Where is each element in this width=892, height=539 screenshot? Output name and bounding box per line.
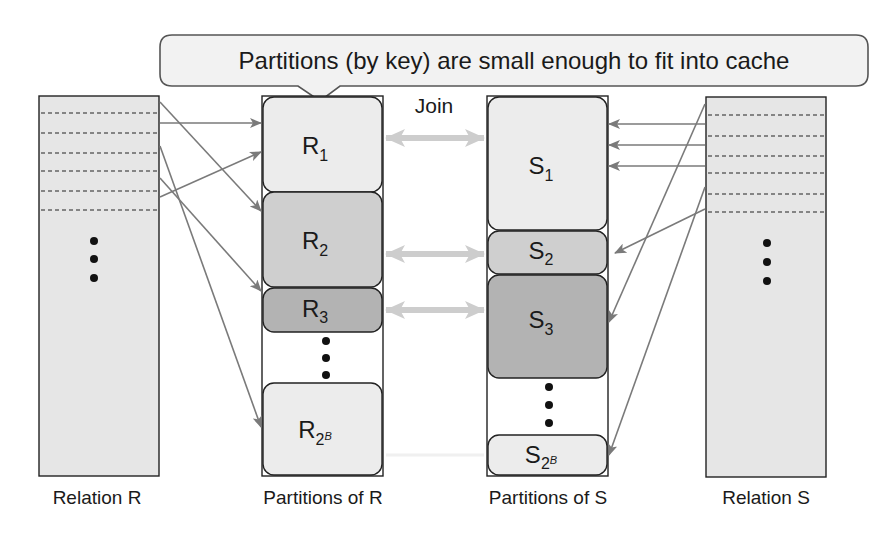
partition-s2b-sup: B <box>550 454 557 466</box>
relation-r-ellipsis-dots <box>90 237 98 282</box>
partitioned-hash-join-diagram: Partitions (by key) are small enough to … <box>0 0 892 539</box>
relation-r-caption: Relation R <box>53 487 142 508</box>
relation-s-table <box>706 97 826 477</box>
partition-s2b-sub: 2 <box>541 455 550 472</box>
join-arrows <box>386 138 484 455</box>
partition-r2b: R2B <box>263 383 382 475</box>
partition-s2b-base: S <box>525 441 541 468</box>
partitions-r-ellipsis-dots <box>322 337 330 379</box>
relation-r-table <box>39 96 159 476</box>
partition-s2-sub: 2 <box>545 251 554 268</box>
partitions-r-column: R1 R2 R3 R2B <box>262 96 383 476</box>
partition-r3-sub: 3 <box>319 309 328 326</box>
partitions-s-ellipsis-dots <box>545 383 553 427</box>
partition-s2: S2 <box>488 231 607 274</box>
join-label: Join <box>415 94 454 117</box>
partition-arrows-s <box>609 104 705 455</box>
partition-s1: S1 <box>488 97 607 230</box>
partition-arrows-r <box>160 102 261 427</box>
partitions-s-caption: Partitions of S <box>489 487 607 508</box>
partition-r2: R2 <box>263 192 382 287</box>
partition-r2b-base: R <box>298 416 315 443</box>
partition-r1-base: R <box>302 132 319 159</box>
partition-s2-base: S <box>529 237 545 264</box>
relation-s-caption: Relation S <box>722 487 810 508</box>
partition-r2b-sup: B <box>324 430 331 442</box>
partition-s3-base: S <box>529 306 545 333</box>
partition-r2b-sub: 2 <box>316 431 325 448</box>
partition-s3: S3 <box>488 275 607 378</box>
callout-bubble: Partitions (by key) are small enough to … <box>160 35 868 101</box>
partition-r3: R3 <box>263 288 382 332</box>
partition-s1-sub: 1 <box>545 167 554 184</box>
partition-r3-base: R <box>302 295 319 322</box>
partitions-s-column: S1 S2 S3 S2B <box>487 96 608 476</box>
partition-r1-sub: 1 <box>319 147 328 164</box>
partitions-r-caption: Partitions of R <box>263 487 382 508</box>
partition-s2b: S2B <box>488 435 607 475</box>
partition-r2-sub: 2 <box>319 242 328 259</box>
partition-r2-base: R <box>302 227 319 254</box>
partition-r1: R1 <box>263 97 382 192</box>
callout-text: Partitions (by key) are small enough to … <box>239 47 790 74</box>
partition-s3-sub: 3 <box>545 321 554 338</box>
partition-s1-base: S <box>529 152 545 179</box>
